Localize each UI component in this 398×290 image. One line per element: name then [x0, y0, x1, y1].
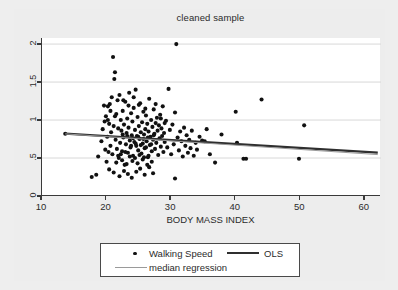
gridlines — [42, 44, 381, 158]
y-tick-label: 2 — [28, 30, 38, 56]
figure-canvas: cleaned sample 0.511.52 102030405060 BOD… — [0, 0, 398, 290]
legend-label-median-regression: median regression — [149, 260, 227, 275]
plot-area — [41, 38, 380, 196]
regression-lines-layer — [65, 134, 378, 155]
legend-row-1: Walking Speed OLS — [101, 246, 301, 261]
x-tick-label: 50 — [284, 201, 314, 212]
x-tick-label: 30 — [155, 201, 185, 212]
legend: Walking Speed OLS median regression — [100, 243, 300, 277]
x-tick-mark — [40, 196, 41, 200]
legend-label-walking-speed: Walking Speed — [149, 246, 213, 261]
scatter-points-layer — [63, 42, 306, 181]
x-tick-label: 60 — [349, 201, 379, 212]
x-axis-title: BODY MASS INDEX — [41, 214, 380, 225]
x-tick-mark — [363, 196, 364, 200]
x-tick-label: 10 — [26, 201, 56, 212]
legend-label-ols: OLS — [264, 246, 283, 261]
x-tick-mark — [234, 196, 235, 200]
y-tick-label: .5 — [28, 144, 38, 170]
x-tick-mark — [105, 196, 106, 200]
x-tick-mark — [299, 196, 300, 200]
legend-row-2: median regression — [101, 260, 301, 275]
x-tick-label: 40 — [220, 201, 250, 212]
legend-marker-median-regression — [115, 267, 147, 268]
y-tick-label: 1 — [28, 106, 38, 132]
y-tick-label: 1.5 — [28, 68, 38, 94]
chart-title: cleaned sample — [41, 12, 380, 23]
x-tick-mark — [169, 196, 170, 200]
legend-marker-ols — [227, 252, 259, 254]
scatter-plot-svg — [42, 38, 381, 196]
x-tick-label: 20 — [91, 201, 121, 212]
legend-marker-walking-speed — [133, 252, 137, 256]
